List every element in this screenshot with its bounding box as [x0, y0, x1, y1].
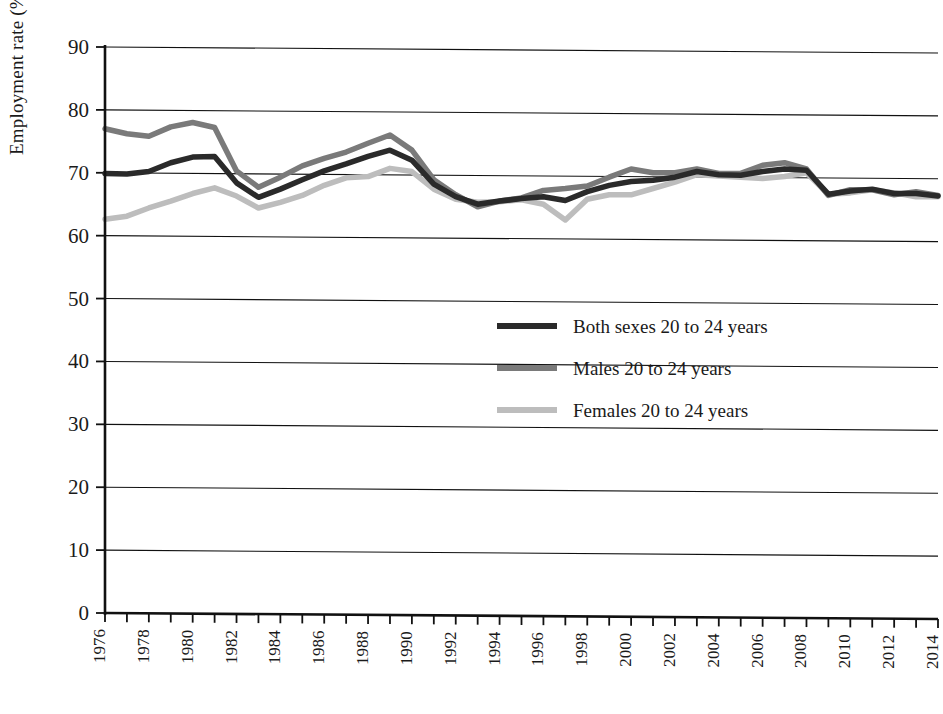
legend-label: Females 20 to 24 years — [573, 400, 748, 421]
y-tick-label: 10 — [68, 538, 89, 562]
x-tick-label: 2004 — [704, 633, 723, 668]
y-tick-label: 0 — [79, 601, 90, 625]
x-tick-label: 1990 — [397, 631, 416, 665]
x-tick-label: 1976 — [90, 629, 109, 663]
y-tick-label: 40 — [68, 349, 89, 373]
x-tick-label: 1992 — [441, 632, 460, 666]
x-tick-label: 1988 — [353, 631, 372, 665]
x-tick-label: 1996 — [528, 632, 547, 666]
x-tick-label: 2012 — [879, 635, 898, 669]
x-tick-label: 2010 — [835, 634, 854, 668]
x-tick-label: 2014 — [923, 635, 942, 670]
chart-legend: Both sexes 20 to 24 yearsMales 20 to 24 … — [497, 316, 768, 421]
y-tick-label: 80 — [68, 98, 89, 122]
y-tick-label: 30 — [68, 412, 89, 436]
x-tick-label: 2008 — [791, 634, 810, 668]
y-tick-label: 60 — [68, 224, 89, 248]
gridline — [105, 550, 938, 556]
x-tick-label: 1978 — [134, 629, 153, 663]
legend-label: Males 20 to 24 years — [573, 358, 731, 379]
y-tick-labels-group: 0102030405060708090 — [68, 35, 89, 625]
chart-figure: Employment rate (%) 0102030405060708090 … — [0, 0, 943, 714]
gridline — [105, 424, 938, 430]
chart-canvas: 0102030405060708090 19761978198019821984… — [0, 0, 943, 714]
gridlines-group — [105, 47, 938, 556]
x-tick-label: 2002 — [660, 633, 679, 667]
x-tick-label: 2006 — [748, 634, 767, 668]
y-tick-label: 90 — [68, 35, 89, 59]
gridline — [105, 47, 938, 53]
x-tick-label: 1984 — [265, 630, 284, 665]
x-tick-label: 1982 — [222, 630, 241, 664]
y-tick-label: 50 — [68, 287, 89, 311]
legend-label: Both sexes 20 to 24 years — [573, 316, 768, 337]
gridline — [105, 299, 938, 305]
x-tick-label: 1986 — [309, 631, 328, 665]
x-tick-label: 1980 — [178, 630, 197, 664]
gridline — [105, 487, 938, 493]
y-tick-label: 20 — [68, 475, 89, 499]
x-tick-label: 1998 — [572, 632, 591, 666]
gridline — [105, 236, 938, 242]
x-tick-label: 1994 — [485, 631, 504, 666]
y-tick-marks-group — [96, 47, 105, 613]
gridline — [105, 110, 938, 116]
x-tick-labels-group: 1976197819801982198419861988199019921994… — [90, 629, 942, 669]
y-tick-label: 70 — [68, 161, 89, 185]
x-tick-label: 2000 — [616, 633, 635, 667]
data-series-group — [105, 122, 938, 219]
